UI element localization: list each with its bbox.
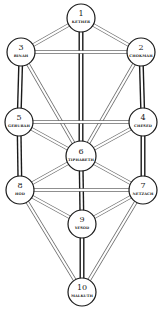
sephirah-netzach: 7 NETZACH bbox=[129, 176, 157, 204]
sephirah-name: YESOD bbox=[74, 226, 90, 230]
sephirah-number: 1 bbox=[78, 9, 83, 18]
sephirah-chesed: 4 CHESED bbox=[129, 108, 157, 136]
sephirah-number: 3 bbox=[18, 43, 23, 52]
sephirah-number: 9 bbox=[79, 215, 84, 224]
sephirah-number: 10 bbox=[77, 283, 87, 292]
sephirah-name: CHOKMAH bbox=[129, 54, 153, 58]
sephirah-chokmah: 2 CHOKMAH bbox=[127, 38, 155, 66]
sephirah-number: 8 bbox=[17, 181, 22, 190]
sephirah-number: 5 bbox=[16, 113, 21, 122]
sephirah-binah: 3 BINAH bbox=[7, 38, 35, 66]
sephirah-malkuth: 10 MALKUTH bbox=[68, 278, 96, 306]
sephirah-number: 6 bbox=[78, 147, 83, 156]
sephirah-name: MALKUTH bbox=[71, 294, 94, 298]
sephirah-number: 7 bbox=[140, 181, 145, 190]
sephirah-yesod: 9 YESOD bbox=[68, 210, 96, 238]
sephirah-kether: 1 KETHER bbox=[67, 4, 95, 32]
sephirah-name: KETHER bbox=[72, 20, 90, 24]
sephirah-geburah: 5 GEBURAH bbox=[5, 108, 33, 136]
sephirah-number: 4 bbox=[140, 113, 145, 122]
sephirah-name: GEBURAH bbox=[8, 124, 30, 128]
sephirah-hod: 8 HOD bbox=[6, 176, 34, 204]
sephirah-name: HOD bbox=[15, 192, 25, 196]
tree-of-life-diagram: 1 KETHER 2 CHOKMAH 3 BINAH 4 CHESED 5 GE… bbox=[0, 0, 162, 314]
sephirah-tiphareth: 6 TIPHARETH bbox=[66, 141, 96, 171]
sephirah-number: 2 bbox=[138, 43, 143, 52]
sephirah-name: BINAH bbox=[14, 54, 29, 58]
sephirah-name: TIPHARETH bbox=[68, 158, 94, 162]
sephirah-name: NETZACH bbox=[132, 192, 154, 196]
sephirah-name: CHESED bbox=[134, 124, 152, 128]
sephirah-circle bbox=[66, 141, 96, 171]
